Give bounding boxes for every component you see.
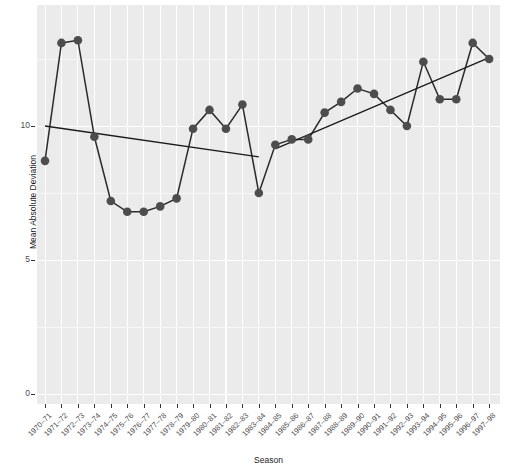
data-point bbox=[238, 100, 247, 109]
data-point bbox=[452, 95, 461, 104]
x-tick-mark-26 bbox=[473, 404, 474, 408]
data-point bbox=[139, 207, 148, 216]
x-tick-mark-21 bbox=[390, 404, 391, 408]
x-tick-mark-0 bbox=[45, 404, 46, 408]
x-tick-mark-16 bbox=[308, 404, 309, 408]
y-tick-label-5: 5 bbox=[4, 254, 30, 264]
data-point bbox=[386, 106, 395, 115]
x-tick-mark-9 bbox=[193, 404, 194, 408]
x-tick-mark-11 bbox=[226, 404, 227, 408]
data-point bbox=[107, 197, 116, 206]
data-point bbox=[337, 98, 346, 107]
x-tick-mark-7 bbox=[160, 404, 161, 408]
y-tick-label-0: 0 bbox=[4, 388, 30, 398]
x-tick-mark-8 bbox=[177, 404, 178, 408]
plot-panel bbox=[37, 5, 500, 404]
data-point bbox=[436, 95, 445, 104]
data-point bbox=[353, 84, 362, 93]
x-tick-mark-6 bbox=[144, 404, 145, 408]
x-tick-mark-20 bbox=[374, 404, 375, 408]
data-point bbox=[287, 135, 296, 144]
data-point bbox=[156, 202, 165, 211]
data-point bbox=[271, 140, 280, 149]
data-point bbox=[41, 157, 50, 166]
data-point bbox=[370, 90, 379, 99]
series-line bbox=[45, 40, 489, 212]
data-point bbox=[74, 36, 83, 45]
y-tick-mark-10 bbox=[31, 126, 35, 127]
y-tick-mark-5 bbox=[31, 260, 35, 261]
y-tick-label-10: 10 bbox=[4, 120, 30, 130]
data-point bbox=[222, 124, 231, 133]
data-point bbox=[468, 39, 477, 48]
data-point bbox=[90, 132, 99, 141]
data-point bbox=[205, 106, 214, 115]
chart-figure: Mean Absolute Deviation 0510 1970–711971… bbox=[0, 0, 507, 473]
data-point bbox=[485, 55, 494, 64]
x-tick-mark-1 bbox=[61, 404, 62, 408]
data-point bbox=[189, 124, 198, 133]
x-tick-mark-22 bbox=[407, 404, 408, 408]
x-tick-mark-17 bbox=[325, 404, 326, 408]
y-tick-mark-0 bbox=[31, 394, 35, 395]
x-tick-mark-19 bbox=[358, 404, 359, 408]
x-tick-mark-25 bbox=[456, 404, 457, 408]
x-tick-mark-24 bbox=[440, 404, 441, 408]
x-tick-mark-15 bbox=[292, 404, 293, 408]
x-tick-mark-27 bbox=[489, 404, 490, 408]
data-point bbox=[403, 122, 412, 131]
x-tick-mark-2 bbox=[78, 404, 79, 408]
x-tick-mark-18 bbox=[341, 404, 342, 408]
x-tick-mark-12 bbox=[242, 404, 243, 408]
data-point bbox=[57, 39, 66, 48]
data-point bbox=[123, 207, 132, 216]
x-tick-mark-5 bbox=[127, 404, 128, 408]
data-point bbox=[419, 57, 428, 66]
x-axis-title: Season bbox=[37, 455, 500, 465]
x-tick-mark-10 bbox=[210, 404, 211, 408]
x-tick-mark-4 bbox=[111, 404, 112, 408]
data-point bbox=[304, 135, 313, 144]
x-tick-mark-13 bbox=[259, 404, 260, 408]
y-axis-ticks: 0510 bbox=[0, 0, 30, 473]
x-tick-mark-14 bbox=[275, 404, 276, 408]
data-point bbox=[172, 194, 181, 203]
data-series-layer bbox=[37, 5, 500, 404]
data-point bbox=[255, 189, 264, 198]
x-tick-mark-3 bbox=[94, 404, 95, 408]
data-point bbox=[320, 108, 329, 117]
x-tick-mark-23 bbox=[423, 404, 424, 408]
